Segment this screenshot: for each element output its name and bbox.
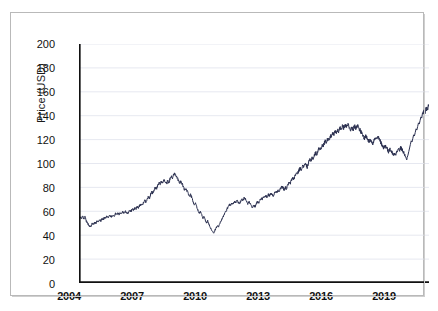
y-tick-label-80: 80: [29, 182, 55, 194]
x-tick-label-2010: 2010: [175, 290, 215, 302]
x-tick-label-2007: 2007: [112, 290, 152, 302]
price-line-chart: [79, 44, 429, 283]
price-series-line: [79, 105, 429, 234]
y-tick-label-120: 120: [29, 134, 55, 146]
y-tick-label-20: 20: [29, 254, 55, 266]
y-tick-label-60: 60: [29, 206, 55, 218]
y-tick-label-100: 100: [29, 158, 55, 170]
gridlines: [79, 44, 429, 259]
plot-area: [79, 44, 429, 283]
chart-figure: Price (USD) 200 180 160 140 120 100 80 6…: [0, 0, 438, 311]
y-tick-label-160: 160: [29, 86, 55, 98]
page-border: Price (USD) 200 180 160 140 120 100 80 6…: [10, 12, 424, 296]
x-tick-label-2004: 2004: [49, 290, 89, 302]
y-tick-label-140: 140: [29, 110, 55, 122]
x-tick-label-2013: 2013: [238, 290, 278, 302]
y-tick-label-200: 200: [29, 38, 55, 50]
x-tick-label-2019: 2019: [364, 290, 404, 302]
y-tick-label-180: 180: [29, 62, 55, 74]
y-tick-label-0: 0: [29, 278, 55, 290]
x-tick-label-2016: 2016: [301, 290, 341, 302]
y-tick-label-40: 40: [29, 230, 55, 242]
